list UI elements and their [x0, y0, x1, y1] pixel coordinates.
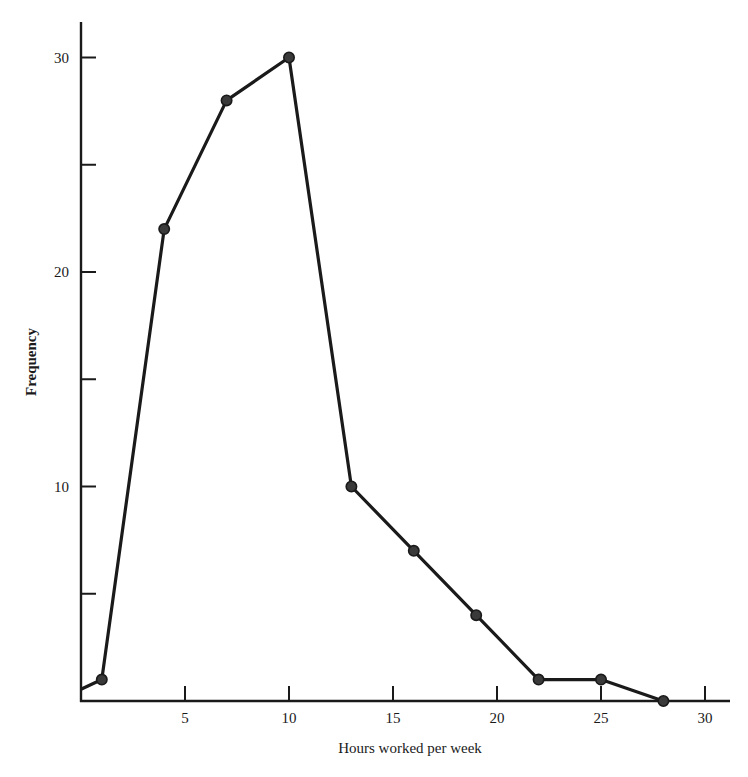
data-point-marker	[658, 696, 668, 706]
frequency-polygon-chart: 102030 51015202530 Hours worked per week…	[0, 0, 748, 777]
y-tick-label: 10	[54, 479, 69, 495]
data-point-marker	[221, 95, 231, 105]
x-tick-label: 15	[386, 710, 401, 726]
data-point-marker	[97, 674, 107, 684]
x-tick-label: 25	[594, 710, 609, 726]
data-point-marker	[284, 52, 294, 62]
x-axis-title: Hours worked per week	[338, 740, 482, 756]
x-tick-label: 30	[698, 710, 713, 726]
series-line	[81, 58, 663, 702]
x-tick-label: 20	[490, 710, 505, 726]
y-axis-title: Frequency	[23, 327, 39, 396]
data-point-marker	[159, 224, 169, 234]
data-point-marker	[346, 481, 356, 491]
series-layer	[81, 52, 669, 706]
y-tick-label: 20	[54, 264, 69, 280]
data-point-marker	[409, 546, 419, 556]
x-tick-label: 10	[282, 710, 297, 726]
data-point-marker	[471, 610, 481, 620]
x-tick-label: 5	[181, 710, 189, 726]
data-point-marker	[533, 674, 543, 684]
y-axis: 102030	[54, 22, 96, 702]
data-point-marker	[596, 674, 606, 684]
y-tick-label: 30	[54, 50, 69, 66]
